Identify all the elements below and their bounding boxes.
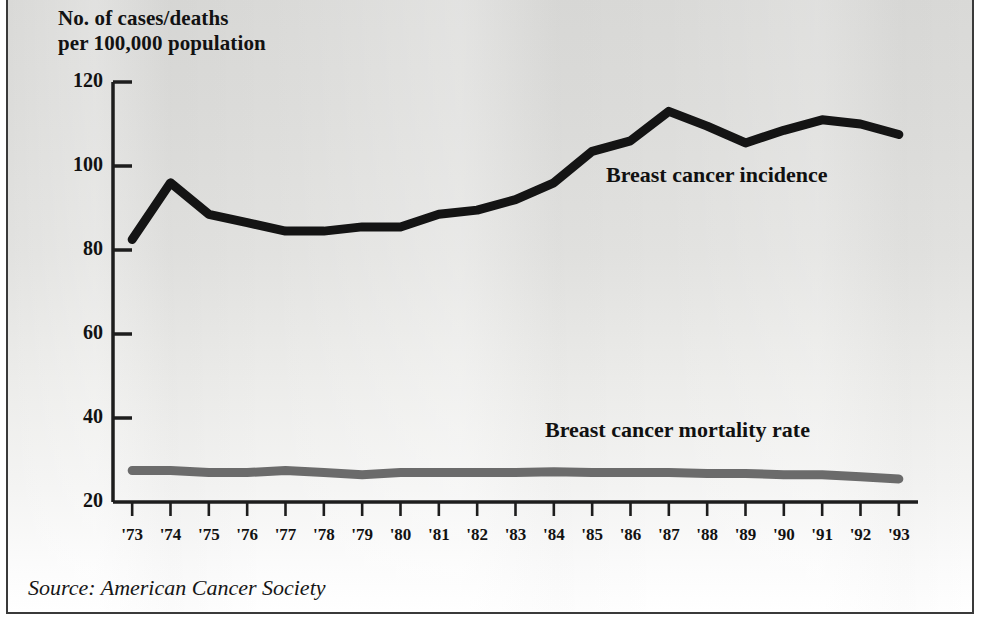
x-axis-ticks [132, 502, 899, 516]
chart-figure: No. of cases/deaths per 100,000 populati… [0, 0, 986, 631]
incidence-series-label: Breast cancer incidence [606, 162, 828, 188]
plot-canvas [0, 0, 986, 631]
y-axis-ticks [113, 82, 132, 418]
source-note: Source: American Cancer Society [28, 575, 326, 601]
axis-lines [113, 82, 918, 516]
mortality-series-label: Breast cancer mortality rate [545, 417, 810, 443]
mortality-line [132, 471, 899, 479]
